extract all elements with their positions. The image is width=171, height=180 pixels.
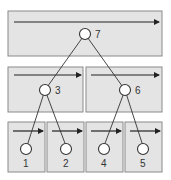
node-label-2: 2 xyxy=(63,158,69,169)
tree-diagram: 7 3 6 1 2 4 5 xyxy=(0,0,171,180)
node-2 xyxy=(61,144,72,155)
node-label-5: 5 xyxy=(140,158,146,169)
node-1 xyxy=(21,144,32,155)
node-label-3: 3 xyxy=(55,85,61,96)
node-label-7: 7 xyxy=(95,29,101,40)
node-label-4: 4 xyxy=(101,158,107,169)
node-label-6: 6 xyxy=(135,85,141,96)
node-7 xyxy=(80,29,91,40)
node-label-1: 1 xyxy=(23,158,29,169)
node-3 xyxy=(40,85,51,96)
node-4 xyxy=(99,144,110,155)
node-5 xyxy=(138,144,149,155)
node-6 xyxy=(120,85,131,96)
